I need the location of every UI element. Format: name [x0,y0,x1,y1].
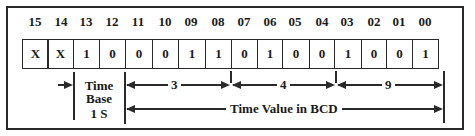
bit-cell: 1 [205,39,232,69]
bit-cell: X [47,39,74,69]
bit-number: 15 [22,14,48,30]
arrow-left-icon [232,81,241,89]
bit-number: 14 [48,14,74,30]
bit-cell: 1 [412,39,439,69]
bit-number: 10 [152,14,178,30]
bit-number: 09 [178,14,204,30]
arrow-right-icon [434,105,443,113]
bit-number: 01 [386,14,412,30]
bit-cell: 1 [257,39,283,69]
bit-cell: 0 [99,39,126,69]
bit-cell: 1 [73,39,100,69]
bit-number: 13 [73,14,99,30]
bit-number: 00 [412,14,438,30]
bit-cell: X [22,39,49,69]
bit-number: 02 [361,14,387,30]
arrow-right-icon [326,81,335,89]
bit-cell: 1 [334,39,362,69]
bcd-digit-label: 3 [168,78,181,91]
bit-number: 11 [125,14,151,30]
bit-cell: 0 [282,39,310,69]
arrow-left-icon [126,105,135,113]
bcd-digit-label: 9 [382,78,395,91]
bit-cell: 0 [386,39,413,69]
bit-number: 06 [257,14,283,30]
arrow-right-icon [64,81,73,89]
time-value-label: Time Value in BCD [226,102,342,115]
bit-cell: 0 [231,39,258,69]
arrow-right-icon [434,81,443,89]
bit-cell: 0 [361,39,387,69]
bit-number: 03 [334,14,360,30]
bit-cell: 0 [125,39,153,69]
arrow-left-icon [337,81,346,89]
bit-cell: 0 [309,39,335,69]
bit-cell: 0 [152,39,179,69]
bit-cell: 1 [178,39,206,69]
time-value-left-line [124,72,126,124]
arrow-left-icon [126,81,135,89]
bcd-digit-label: 4 [277,78,290,91]
time-value-right-line [443,71,445,123]
bit-number: 08 [205,14,231,30]
bit-number: 07 [231,14,257,30]
time-base-left-line [73,72,75,120]
time-base-label: Base [76,92,122,106]
time-base-value: 1 S [76,107,122,121]
bit-number: 12 [99,14,125,30]
arrow-right-icon [221,81,230,89]
bit-number: 05 [282,14,308,30]
bit-number: 04 [309,14,335,30]
